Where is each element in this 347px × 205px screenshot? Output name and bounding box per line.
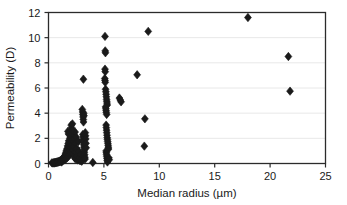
x-tick-label: 25 xyxy=(319,170,331,182)
y-tick-label: 10 xyxy=(28,32,40,44)
scatter-chart-figure: 0510152025 024681012 Median radius (µm) … xyxy=(0,0,347,205)
x-tick-label: 5 xyxy=(101,170,107,182)
scatter-plot-canvas: 0510152025 024681012 Median radius (µm) … xyxy=(0,0,347,205)
y-tick-label: 2 xyxy=(34,132,40,144)
y-tick-label: 4 xyxy=(34,107,40,119)
y-tick-label: 8 xyxy=(34,57,40,69)
x-tick-label: 15 xyxy=(209,170,221,182)
y-axis-title: Permeability (D) xyxy=(4,47,16,130)
plot-background xyxy=(0,0,347,205)
x-axis-title: Median radius (µm) xyxy=(137,187,236,199)
x-tick-label: 10 xyxy=(153,170,165,182)
x-tick-label: 0 xyxy=(45,170,51,182)
y-tick-label: 6 xyxy=(34,82,40,94)
x-tick-label: 20 xyxy=(264,170,276,182)
y-tick-label: 0 xyxy=(34,158,40,170)
y-tick-label: 12 xyxy=(28,7,40,19)
